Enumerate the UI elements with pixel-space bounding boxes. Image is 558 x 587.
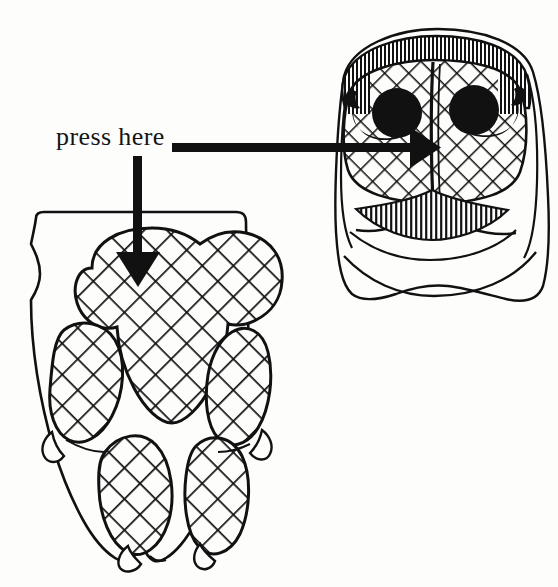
- diagram-page: press here: [0, 0, 558, 587]
- arrow-to-paw-pad-shaft: [133, 156, 142, 261]
- right-nostril: [449, 85, 499, 135]
- upper-figure-muzzle: [335, 29, 548, 301]
- press-here-label: press here: [56, 122, 165, 152]
- arrow-to-muzzle-shaft: [172, 143, 417, 152]
- anatomical-figure-canvas: [0, 0, 558, 587]
- lower-figure-paw: [31, 212, 290, 571]
